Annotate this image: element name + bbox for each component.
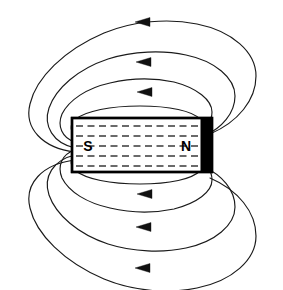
bar-magnet: S N <box>72 118 212 172</box>
north-pole-block <box>201 118 212 172</box>
north-pole-label: N <box>181 138 191 154</box>
magnetic-field-diagram: S N <box>0 0 283 290</box>
south-pole-label: S <box>83 138 92 154</box>
field-diagram-canvas: S N <box>0 0 283 290</box>
